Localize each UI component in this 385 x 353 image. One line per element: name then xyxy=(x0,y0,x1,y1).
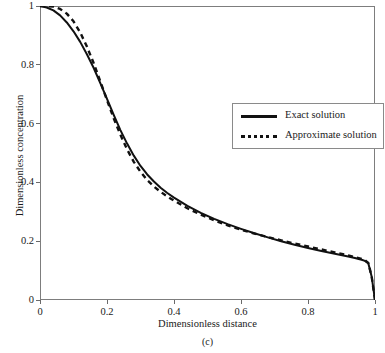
x-tick-mark xyxy=(174,300,175,304)
x-tick-label: 0.2 xyxy=(87,306,127,317)
y-tick-mark xyxy=(36,64,40,65)
legend-line-solid-icon xyxy=(241,115,277,118)
legend: Exact solution Approximate solution xyxy=(232,103,384,149)
series-approximate-solution xyxy=(40,6,375,300)
plot-curves xyxy=(40,6,375,300)
legend-line-dashed-icon xyxy=(241,135,277,138)
y-tick-label: 1 xyxy=(0,0,34,11)
y-axis-title: Dimensionless concentration xyxy=(14,41,25,271)
y-tick-mark xyxy=(36,123,40,124)
figure-caption: (c) xyxy=(40,336,375,347)
x-tick-mark xyxy=(241,300,242,304)
x-tick-label: 0.8 xyxy=(288,306,328,317)
y-tick-mark xyxy=(36,182,40,183)
y-tick-label: 0 xyxy=(0,294,34,305)
x-tick-mark xyxy=(40,300,41,304)
x-tick-label: 0 xyxy=(20,306,60,317)
legend-item-approximate: Approximate solution xyxy=(233,126,385,146)
series-exact-solution xyxy=(40,6,375,300)
y-tick-mark xyxy=(36,6,40,7)
legend-item-exact: Exact solution xyxy=(233,106,385,126)
x-tick-mark xyxy=(375,300,376,304)
y-tick-mark xyxy=(36,241,40,242)
x-tick-label: 1 xyxy=(355,306,385,317)
x-axis-title: Dimensionless distance xyxy=(40,318,375,329)
x-tick-label: 0.6 xyxy=(221,306,261,317)
x-tick-mark xyxy=(107,300,108,304)
x-tick-label: 0.4 xyxy=(154,306,194,317)
figure-panel: 00.20.40.60.8100.20.40.60.81 Dimensionle… xyxy=(0,0,385,353)
legend-label-exact: Exact solution xyxy=(285,109,345,120)
legend-label-approximate: Approximate solution xyxy=(285,129,377,140)
x-tick-mark xyxy=(308,300,309,304)
